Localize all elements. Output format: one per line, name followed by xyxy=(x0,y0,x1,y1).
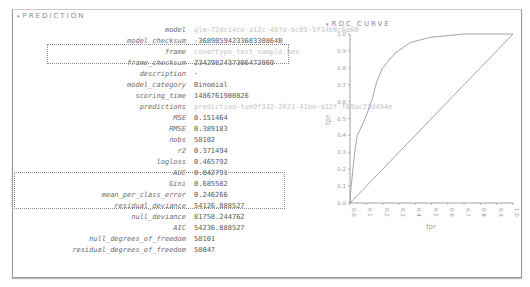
x-tick-label: 0.5 xyxy=(433,208,439,217)
x-tick-label: 1.0 xyxy=(514,208,520,217)
chart-lines xyxy=(350,34,513,203)
y-tick-label: 0.5 xyxy=(337,116,346,122)
y-tick-label: 0.3 xyxy=(337,149,346,155)
y-tick-label: 0.9 xyxy=(337,48,346,54)
x-tick-label: 0.3 xyxy=(400,208,406,217)
y-tick-label: 0.7 xyxy=(337,82,346,88)
y-tick-label: 1.0 xyxy=(337,31,346,37)
y-tick-label: 0.2 xyxy=(337,166,346,172)
x-tick-label: 0.7 xyxy=(465,208,471,217)
roc-chart: 0.00.10.20.30.40.50.60.70.80.91.00.00.10… xyxy=(0,0,530,287)
diagonal-reference-line xyxy=(350,34,513,203)
x-tick-label: 0.9 xyxy=(498,208,504,217)
x-tick-label: 0.0 xyxy=(351,208,357,217)
y-tick-label: 0.6 xyxy=(337,99,346,105)
y-tick-label: 0.8 xyxy=(337,65,346,71)
y-tick-label: 0.0 xyxy=(337,200,346,206)
y-tick-label: 0.4 xyxy=(337,132,346,138)
y-tick-label: 0.1 xyxy=(337,183,346,189)
chart-axes: 0.00.10.20.30.40.50.60.70.80.91.00.00.10… xyxy=(337,31,520,217)
x-tick-label: 0.1 xyxy=(367,208,373,217)
x-tick-label: 0.8 xyxy=(481,208,487,217)
x-axis-label: fpr xyxy=(426,223,436,231)
y-axis-label: tpr xyxy=(324,115,332,125)
x-tick-label: 0.6 xyxy=(449,208,455,217)
x-tick-label: 0.4 xyxy=(416,208,422,217)
x-tick-label: 0.2 xyxy=(384,208,390,217)
